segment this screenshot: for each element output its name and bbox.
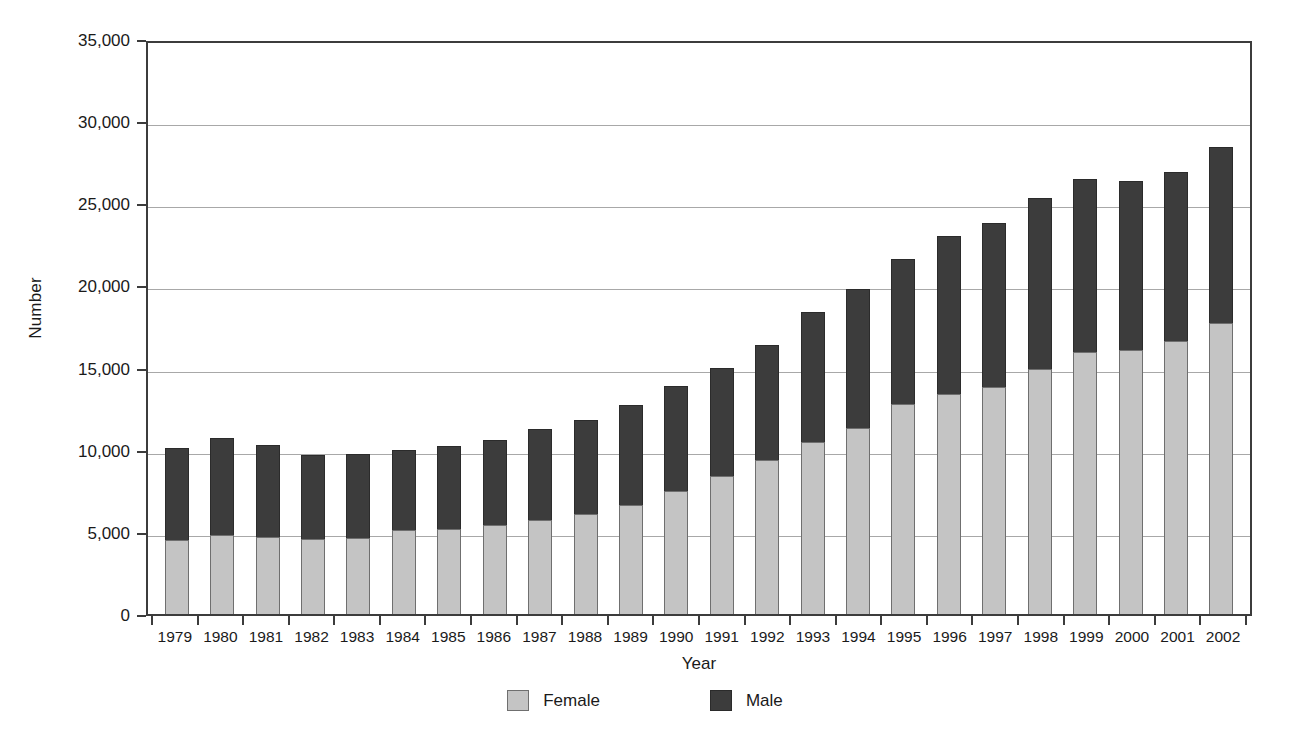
bar-segment-male[interactable] xyxy=(210,438,234,535)
bar-group[interactable] xyxy=(563,43,608,614)
bar-group[interactable] xyxy=(1108,43,1153,614)
x-axis-tick-labels: 1979198019811982198319841985198619871988… xyxy=(146,628,1252,652)
bar-segment-female[interactable] xyxy=(574,514,598,614)
bar-group[interactable] xyxy=(699,43,744,614)
bar-group[interactable] xyxy=(790,43,835,614)
legend-item[interactable]: Female xyxy=(507,690,600,711)
bar-segment-female[interactable] xyxy=(891,404,915,614)
bar-segment-male[interactable] xyxy=(801,312,825,442)
bar-segment-female[interactable] xyxy=(346,538,370,614)
bar-segment-female[interactable] xyxy=(664,491,688,614)
bar-stack[interactable] xyxy=(210,438,234,614)
bar-segment-male[interactable] xyxy=(256,445,280,537)
bar-segment-male[interactable] xyxy=(301,455,325,539)
bar-stack[interactable] xyxy=(437,446,461,614)
bar-segment-male[interactable] xyxy=(846,289,870,428)
bar-group[interactable] xyxy=(381,43,426,614)
bar-segment-female[interactable] xyxy=(619,505,643,614)
bar-stack[interactable] xyxy=(256,445,280,614)
bar-segment-male[interactable] xyxy=(937,236,961,394)
bar-stack[interactable] xyxy=(1119,181,1143,614)
bar-segment-female[interactable] xyxy=(1209,323,1233,614)
bar-segment-female[interactable] xyxy=(483,525,507,614)
bar-segment-female[interactable] xyxy=(846,428,870,614)
bar-group[interactable] xyxy=(472,43,517,614)
bar-stack[interactable] xyxy=(891,259,915,614)
bar-segment-female[interactable] xyxy=(1073,352,1097,614)
bar-group[interactable] xyxy=(245,43,290,614)
bar-segment-male[interactable] xyxy=(483,440,507,525)
bar-stack[interactable] xyxy=(846,289,870,614)
bar-stack[interactable] xyxy=(528,429,552,614)
bar-segment-female[interactable] xyxy=(1164,341,1188,614)
bar-segment-male[interactable] xyxy=(1209,147,1233,323)
bar-segment-male[interactable] xyxy=(755,345,779,461)
bar-stack[interactable] xyxy=(619,405,643,614)
bar-stack[interactable] xyxy=(982,223,1006,614)
bar-stack[interactable] xyxy=(1164,172,1188,614)
bar-group[interactable] xyxy=(517,43,562,614)
bar-segment-female[interactable] xyxy=(755,460,779,614)
bar-segment-female[interactable] xyxy=(1119,350,1143,615)
bar-group[interactable] xyxy=(835,43,880,614)
bar-stack[interactable] xyxy=(937,236,961,614)
bar-stack[interactable] xyxy=(1028,198,1052,614)
bar-group[interactable] xyxy=(336,43,381,614)
bar-segment-male[interactable] xyxy=(346,454,370,538)
bar-stack[interactable] xyxy=(801,312,825,614)
bar-stack[interactable] xyxy=(574,420,598,614)
bar-group[interactable] xyxy=(1062,43,1107,614)
bar-segment-female[interactable] xyxy=(165,540,189,614)
bar-stack[interactable] xyxy=(165,448,189,614)
bar-segment-female[interactable] xyxy=(937,394,961,614)
bar-group[interactable] xyxy=(608,43,653,614)
bar-stack[interactable] xyxy=(346,454,370,614)
bar-segment-female[interactable] xyxy=(392,530,416,614)
bar-group[interactable] xyxy=(881,43,926,614)
bar-segment-male[interactable] xyxy=(891,259,915,404)
bar-segment-male[interactable] xyxy=(165,448,189,540)
bar-segment-male[interactable] xyxy=(392,450,416,531)
bar-segment-male[interactable] xyxy=(437,446,461,528)
bar-segment-male[interactable] xyxy=(1028,198,1052,369)
bar-stack[interactable] xyxy=(710,368,734,614)
bar-segment-male[interactable] xyxy=(574,420,598,514)
bar-group[interactable] xyxy=(654,43,699,614)
bar-stack[interactable] xyxy=(1073,179,1097,614)
bar-segment-female[interactable] xyxy=(801,442,825,615)
bar-segment-male[interactable] xyxy=(1164,172,1188,341)
bar-stack[interactable] xyxy=(483,440,507,614)
bar-stack[interactable] xyxy=(392,450,416,614)
bar-group[interactable] xyxy=(972,43,1017,614)
bar-segment-female[interactable] xyxy=(982,387,1006,614)
bar-group[interactable] xyxy=(199,43,244,614)
bar-stack[interactable] xyxy=(755,345,779,614)
bar-segment-female[interactable] xyxy=(437,529,461,614)
bar-segment-male[interactable] xyxy=(1073,179,1097,352)
bar-group[interactable] xyxy=(744,43,789,614)
bar-segment-male[interactable] xyxy=(528,429,552,520)
bar-group[interactable] xyxy=(154,43,199,614)
legend-item[interactable]: Male xyxy=(710,690,783,711)
bar-segment-male[interactable] xyxy=(710,368,734,476)
bar-group[interactable] xyxy=(1153,43,1198,614)
bar-segment-female[interactable] xyxy=(301,539,325,614)
bar-segment-female[interactable] xyxy=(210,535,234,614)
bar-segment-female[interactable] xyxy=(256,537,280,614)
bar-group[interactable] xyxy=(926,43,971,614)
bar-stack[interactable] xyxy=(1209,147,1233,614)
bar-segment-male[interactable] xyxy=(664,386,688,490)
bar-segment-male[interactable] xyxy=(1119,181,1143,349)
bar-segment-female[interactable] xyxy=(1028,369,1052,614)
bar-segment-male[interactable] xyxy=(619,405,643,504)
bar-group[interactable] xyxy=(1199,43,1244,614)
bar-group[interactable] xyxy=(1017,43,1062,614)
bar-stack[interactable] xyxy=(301,455,325,614)
bar-group[interactable] xyxy=(427,43,472,614)
x-axis-tick xyxy=(653,616,699,625)
bar-segment-female[interactable] xyxy=(710,476,734,614)
bar-segment-female[interactable] xyxy=(528,520,552,614)
bar-segment-male[interactable] xyxy=(982,223,1006,387)
bar-stack[interactable] xyxy=(664,386,688,614)
bar-group[interactable] xyxy=(290,43,335,614)
